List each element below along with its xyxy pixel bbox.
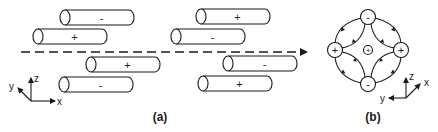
node-left: +	[328, 43, 343, 58]
arrow-icon	[391, 70, 396, 74]
field-line-outer-br	[375, 57, 401, 83]
axes-a: z y x	[9, 73, 62, 107]
x-axis-arrow	[406, 84, 420, 98]
z-axis-label: z	[34, 73, 39, 84]
field-line-outer-bl	[335, 57, 361, 83]
cylinder-end-cap	[196, 9, 206, 24]
y-axis-arrow	[18, 88, 31, 101]
node-top: -	[361, 10, 376, 25]
node-bottom-sign: -	[366, 78, 370, 90]
cylinder: -	[171, 29, 245, 44]
panel-a-label: (a)	[153, 110, 168, 124]
cylinder-end-cap	[60, 10, 70, 25]
field-line-outer-tl	[335, 18, 361, 43]
cylinder-end-cap	[59, 77, 69, 92]
node-bottom: -	[361, 77, 376, 92]
cylinder-end-cap	[33, 29, 43, 44]
cylinder-sign: +	[71, 31, 77, 43]
node-center-sign: +	[366, 46, 371, 55]
field-line-outer-tr	[375, 18, 401, 43]
cylinder-sign: -	[99, 79, 103, 91]
cylinder-end-cap	[198, 76, 208, 91]
panel-b-label: (b)	[365, 110, 380, 124]
cylinder-end-cap	[86, 57, 96, 72]
node-left-sign: +	[332, 44, 338, 56]
y-axis-label: y	[9, 81, 14, 92]
cylinder-sign: -	[263, 58, 267, 70]
field-line-inner-tr	[371, 24, 394, 48]
z-axis-label: z	[409, 71, 414, 82]
cylinder-sign: -	[211, 31, 215, 43]
arrow-icon	[341, 70, 346, 74]
node-right-sign: +	[398, 44, 404, 56]
node-right: +	[394, 43, 409, 58]
cylinder: -	[223, 56, 297, 71]
field-line-inner-tl	[342, 24, 365, 48]
cylinder-sign: +	[124, 59, 130, 71]
cylinder: +	[33, 29, 107, 44]
x-axis-label: x	[57, 96, 62, 107]
cylinder: +	[198, 76, 272, 91]
cylinder-group: -++-+--+	[33, 9, 297, 92]
diagram-canvas: -++-+--+ z y x (a)	[0, 0, 438, 132]
x-axis-label: x	[424, 77, 429, 88]
field-line-inner-br	[371, 52, 394, 77]
field-line-inner-bl	[342, 52, 365, 77]
cylinder: -	[59, 77, 133, 92]
cylinder-sign: +	[234, 11, 240, 23]
node-top-sign: -	[366, 11, 370, 23]
cylinder: -	[60, 10, 134, 25]
cylinder: +	[86, 57, 160, 72]
y-axis-label: y	[380, 93, 385, 104]
panel-b: - - + + + z x y (b)	[328, 10, 430, 125]
cylinder-sign: +	[236, 78, 242, 90]
cylinder: +	[196, 9, 270, 24]
axes-b: z x y	[380, 71, 429, 104]
node-center: +	[364, 46, 373, 55]
cylinder-end-cap	[223, 56, 233, 71]
cylinder-sign: -	[100, 12, 104, 24]
panel-a: -++-+--+ z y x (a)	[9, 9, 306, 124]
cylinder-end-cap	[171, 29, 181, 44]
